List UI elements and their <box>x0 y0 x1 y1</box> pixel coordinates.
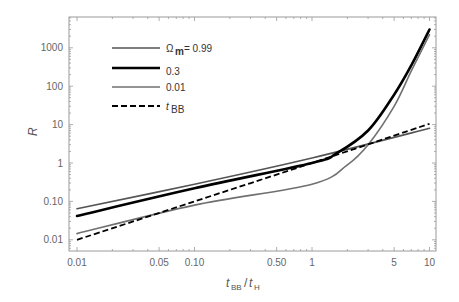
x-tick-label: 5 <box>391 257 397 268</box>
series-line-1 <box>77 30 430 216</box>
legend-label-001: 0.01 <box>166 82 186 93</box>
legend-omega-sub: m <box>175 46 184 57</box>
x-axis-label-sub1: BB <box>231 283 242 292</box>
x-tick-label: 0.05 <box>149 257 169 268</box>
chart-canvas: 0.010.050.100.5015100.010.101101001000 Ω… <box>0 0 459 302</box>
data-series <box>77 30 430 240</box>
y-tick-label: 100 <box>46 81 63 92</box>
y-tick-label: 0.10 <box>44 196 64 207</box>
legend-label-tbb-sub: BB <box>171 104 185 115</box>
x-tick-label: 0.50 <box>267 257 287 268</box>
axis-ticks <box>69 17 436 251</box>
legend-label-omega-099: = 0.99 <box>184 43 213 54</box>
y-tick-label: 1 <box>57 158 63 169</box>
legend-label-tbb: t <box>166 101 170 112</box>
y-tick-label: 1000 <box>41 42 64 53</box>
x-axis-label-t1: t <box>226 276 230 290</box>
series-line-0 <box>77 128 430 209</box>
x-tick-label: 1 <box>309 257 315 268</box>
x-tick-label: 0.01 <box>67 257 87 268</box>
legend-omega-symbol: Ω <box>166 43 174 54</box>
x-axis-label-sub2: H <box>254 283 260 292</box>
legend: Ω m = 0.99 0.3 0.01 t BB <box>112 43 213 115</box>
y-axis-label: R <box>26 127 40 136</box>
x-tick-label: 10 <box>424 257 436 268</box>
axis-tick-labels: 0.010.050.100.5015100.010.101101001000 <box>41 42 436 268</box>
x-axis-label: t BB / t H <box>226 276 260 292</box>
y-tick-label: 0.01 <box>44 234 64 245</box>
y-tick-label: 10 <box>52 119 64 130</box>
x-tick-label: 0.10 <box>185 257 205 268</box>
x-axis-label-slash: / <box>244 276 248 290</box>
series-line-3 <box>77 124 430 240</box>
x-axis-label-t2: t <box>249 276 253 290</box>
legend-label-03: 0.3 <box>166 66 180 77</box>
plot-frame <box>69 17 436 251</box>
